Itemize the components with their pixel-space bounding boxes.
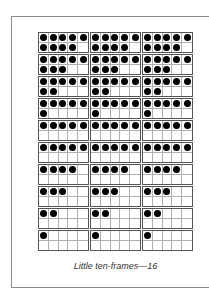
frame-cell [143, 33, 153, 43]
ten-frame [142, 230, 193, 251]
counter-dot-icon [59, 100, 66, 107]
counter-dot-icon [50, 166, 57, 173]
frame-cell [143, 231, 153, 241]
ten-frame [90, 120, 141, 141]
frame-cell [120, 99, 130, 109]
frame-cell [111, 153, 121, 163]
counter-dot-icon [92, 232, 99, 239]
ten-frame [38, 142, 89, 163]
frame-cell [182, 153, 192, 163]
counter-dot-icon [92, 188, 99, 195]
frame-cell [59, 121, 69, 131]
frame-cell [143, 187, 153, 197]
counter-dot-icon [50, 56, 57, 63]
counter-dot-icon [102, 100, 109, 107]
counter-dot-icon [59, 34, 66, 41]
frame-cell [111, 87, 121, 97]
ten-frame [38, 98, 89, 119]
frame-cell [130, 231, 140, 241]
frame-cell [49, 143, 59, 153]
counter-dot-icon [92, 88, 99, 95]
frame-cell [49, 131, 59, 141]
counter-dot-icon [144, 34, 151, 41]
frame-cell [39, 175, 49, 185]
frame-cell [78, 165, 88, 175]
frame-cell [68, 87, 78, 97]
frame-cell [153, 65, 163, 75]
ten-frame [38, 76, 89, 97]
ten-frame [142, 120, 193, 141]
frame-cell [101, 43, 111, 53]
counter-dot-icon [111, 78, 118, 85]
frame-cell [68, 231, 78, 241]
counter-dot-icon [132, 122, 139, 129]
counter-dot-icon [40, 166, 47, 173]
frame-cell [163, 43, 173, 53]
frame-cell [111, 33, 121, 43]
ten-frame [90, 230, 141, 251]
frame-cell [78, 187, 88, 197]
frame-cell [130, 43, 140, 53]
frame-cell [101, 121, 111, 131]
counter-dot-icon [111, 100, 118, 107]
counter-dot-icon [80, 122, 87, 129]
counter-dot-icon [121, 34, 128, 41]
frame-cell [130, 55, 140, 65]
counter-dot-icon [121, 78, 128, 85]
frame-cell [120, 143, 130, 153]
frame-cell [49, 219, 59, 229]
frame-cell [111, 241, 121, 251]
frame-cell [68, 153, 78, 163]
frame-cell [78, 121, 88, 131]
counter-dot-icon [102, 78, 109, 85]
frame-cell [111, 165, 121, 175]
counter-dot-icon [92, 56, 99, 63]
ten-frame [142, 142, 193, 163]
frame-cell [101, 175, 111, 185]
frame-cell [172, 165, 182, 175]
frame-cell [91, 165, 101, 175]
frame-cell [68, 55, 78, 65]
counter-dot-icon [40, 34, 47, 41]
frame-cell [101, 153, 111, 163]
counter-dot-icon [163, 166, 170, 173]
frame-cell [59, 77, 69, 87]
frame-cell [59, 219, 69, 229]
frame-cell [130, 65, 140, 75]
frame-cell [182, 187, 192, 197]
frame-cell [153, 121, 163, 131]
frame-cell [39, 65, 49, 75]
frame-cell [153, 99, 163, 109]
counter-dot-icon [111, 66, 118, 73]
frame-cell [153, 165, 163, 175]
frame-cell [49, 197, 59, 207]
frame-cell [163, 143, 173, 153]
frame-cell [78, 77, 88, 87]
counter-dot-icon [132, 56, 139, 63]
frame-cell [101, 165, 111, 175]
frame-cell [172, 197, 182, 207]
frame-cell [101, 241, 111, 251]
frame-cell [182, 241, 192, 251]
counter-dot-icon [163, 78, 170, 85]
frame-cell [111, 65, 121, 75]
frame-cell [101, 87, 111, 97]
frame-cell [39, 209, 49, 219]
counter-dot-icon [144, 66, 151, 73]
frame-cell [172, 87, 182, 97]
frame-cell [153, 143, 163, 153]
counter-dot-icon [92, 166, 99, 173]
frame-cell [120, 175, 130, 185]
counter-dot-icon [40, 100, 47, 107]
frame-cell [91, 109, 101, 119]
frame-cell [182, 99, 192, 109]
counter-dot-icon [144, 122, 151, 129]
counter-dot-icon [40, 144, 47, 151]
frame-cell [101, 77, 111, 87]
frame-cell [59, 65, 69, 75]
counter-dot-icon [40, 44, 47, 51]
frame-cell [143, 65, 153, 75]
frame-cell [120, 43, 130, 53]
counter-dot-icon [111, 166, 118, 173]
frame-cell [130, 187, 140, 197]
